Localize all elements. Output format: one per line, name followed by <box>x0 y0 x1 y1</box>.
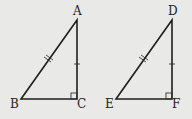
vertex-label-c: C <box>77 97 86 111</box>
vertex-label-d: D <box>168 4 178 18</box>
vertex-label-f: F <box>172 97 180 111</box>
vertex-label-a: A <box>72 4 82 18</box>
triangle-abc-outline <box>21 20 77 99</box>
congruent-right-triangles-figure: A B C D E F <box>0 0 192 119</box>
vertex-label-b: B <box>10 97 19 111</box>
triangle-def-outline <box>116 20 172 99</box>
triangle-abc: A B C <box>10 4 86 111</box>
vertex-label-e: E <box>105 97 114 111</box>
triangle-def: D E F <box>105 4 180 111</box>
